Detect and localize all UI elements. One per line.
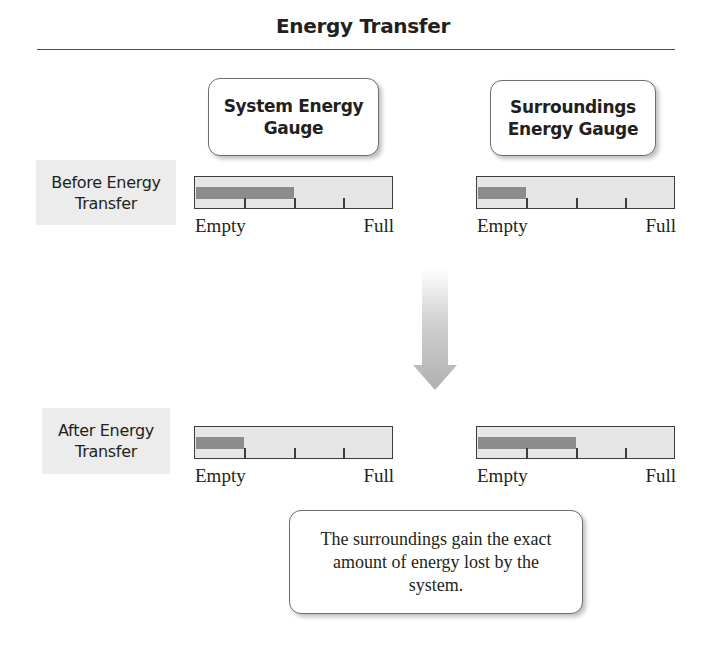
gauge-tick (526, 198, 528, 208)
row-label-after: After Energy Transfer (42, 408, 170, 474)
gauge-tick (294, 198, 296, 208)
scale-empty-label: Empty (195, 465, 246, 487)
scale-full-label: Full (363, 465, 394, 487)
gauge-after-system (194, 426, 393, 459)
gauge-tick (244, 448, 246, 458)
gauge-fill (478, 187, 526, 199)
gauge-scale-before-surroundings: Empty Full (477, 215, 676, 239)
gauge-tick (294, 448, 296, 458)
scale-empty-label: Empty (195, 215, 246, 237)
scale-full-label: Full (645, 465, 676, 487)
gauge-before-surroundings (476, 176, 675, 209)
gauge-tick (576, 448, 578, 458)
gauge-tick (576, 198, 578, 208)
gauge-fill (196, 437, 244, 449)
scale-empty-label: Empty (477, 215, 528, 237)
gauge-after-surroundings (476, 426, 675, 459)
scale-full-label: Full (363, 215, 394, 237)
gauge-tick (343, 198, 345, 208)
scale-full-label: Full (645, 215, 676, 237)
title-divider (37, 49, 675, 50)
gauge-tick (526, 448, 528, 458)
gauge-scale-after-system: Empty Full (195, 465, 394, 489)
scale-empty-label: Empty (477, 465, 528, 487)
gauge-before-system (194, 176, 393, 209)
gauge-scale-before-system: Empty Full (195, 215, 394, 239)
gauge-tick (625, 198, 627, 208)
diagram-title: Energy Transfer (0, 14, 726, 38)
gauge-tick (625, 448, 627, 458)
gauge-tick (244, 198, 246, 208)
gauge-scale-after-surroundings: Empty Full (477, 465, 676, 489)
row-label-before: Before Energy Transfer (36, 160, 176, 225)
system-gauge-label: System Energy Gauge (208, 78, 379, 156)
surroundings-gauge-label: Surroundings Energy Gauge (490, 80, 656, 156)
down-arrow-icon (411, 268, 459, 392)
conservation-callout: The surroundings gain the exact amount o… (289, 510, 583, 614)
gauge-tick (343, 448, 345, 458)
